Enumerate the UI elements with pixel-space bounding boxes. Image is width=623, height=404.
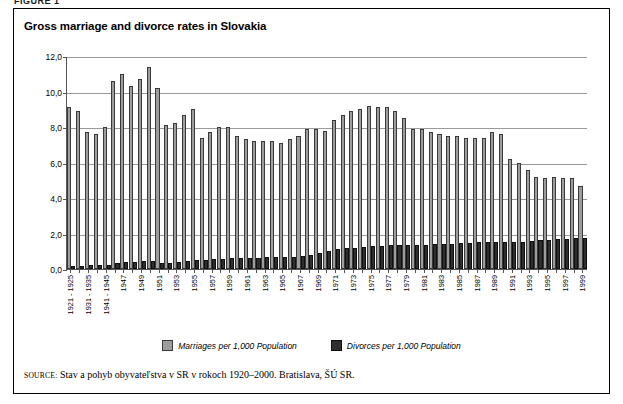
- bar-group: [208, 57, 217, 269]
- bar-marriages: [111, 81, 115, 269]
- bar-group: [173, 57, 182, 269]
- x-axis-tick: [265, 270, 266, 273]
- x-axis-slot: 1921 - 1925: [66, 270, 75, 332]
- bar-group: [437, 57, 446, 269]
- x-axis-slot: [393, 270, 402, 332]
- bar-marriages: [67, 107, 71, 269]
- legend-item-divorces: Divorces per 1,000 Population: [331, 340, 461, 351]
- x-axis-tick-label: 1977: [384, 275, 393, 291]
- bar-group: [578, 57, 587, 269]
- bar-group: [111, 57, 120, 269]
- x-axis-tick: [150, 270, 151, 273]
- x-axis-tick: [309, 270, 310, 273]
- x-axis-slot: 1931 - 1935: [84, 270, 93, 332]
- x-axis-tick: [70, 270, 71, 273]
- x-axis-tick: [194, 270, 195, 273]
- x-axis-tick-label: 1965: [278, 275, 287, 291]
- x-axis-slot: [251, 270, 260, 332]
- x-axis-tick: [565, 270, 566, 273]
- x-axis-tick-label: 1967: [295, 275, 304, 291]
- x-axis-tick-label: 1997: [560, 275, 569, 291]
- x-axis-tick: [574, 270, 575, 273]
- x-axis-tick: [582, 270, 583, 273]
- x-axis-slot: 1993: [525, 270, 534, 332]
- x-axis-slot: 1951: [154, 270, 163, 332]
- x-axis-slot: 1989: [490, 270, 499, 332]
- bar-group: [534, 57, 543, 269]
- x-axis-slot: [92, 270, 101, 332]
- bar-marriages: [279, 143, 283, 269]
- bar-group: [261, 57, 270, 269]
- bar-marriages: [164, 125, 168, 269]
- x-axis-slot: 1973: [349, 270, 358, 332]
- x-axis-tick: [485, 270, 486, 273]
- x-axis-tick: [132, 270, 133, 273]
- x-axis-tick: [441, 270, 442, 273]
- bar-marriages: [244, 139, 248, 269]
- x-axis-slot: 1959: [225, 270, 234, 332]
- bar-marriages: [103, 127, 107, 269]
- bar-marriages: [341, 115, 345, 269]
- bar-group: [243, 57, 252, 269]
- x-axis-tick-label: 1975: [366, 275, 375, 291]
- x-axis-tick: [88, 270, 89, 273]
- x-axis-tick: [556, 270, 557, 273]
- y-axis-tick-label: 0,0: [24, 265, 62, 275]
- x-axis-tick-label: 1995: [543, 275, 552, 291]
- legend-swatch-marriages: [162, 340, 173, 351]
- x-axis-labels: 1921 - 19251931 - 19351941 - 19451947194…: [66, 270, 587, 332]
- x-axis-tick: [503, 270, 504, 273]
- x-axis-slot: 1977: [384, 270, 393, 332]
- x-axis-slot: [181, 270, 190, 332]
- bar-marriages: [358, 109, 362, 269]
- bar-marriages: [235, 136, 239, 269]
- bar-group: [367, 57, 376, 269]
- x-axis-slot: 1941 - 1945: [101, 270, 110, 332]
- x-axis-tick: [521, 270, 522, 273]
- bar-group: [199, 57, 208, 269]
- x-axis-slot: [552, 270, 561, 332]
- x-axis-slot: 1969: [313, 270, 322, 332]
- bar-group: [349, 57, 358, 269]
- plot-area: 0,02,04,06,08,010,012,0 1921 - 19251931 …: [24, 45, 599, 295]
- bar-marriages: [305, 129, 309, 269]
- x-axis-tick: [415, 270, 416, 273]
- x-axis-tick: [176, 270, 177, 273]
- x-axis-tick-label: 1949: [137, 275, 146, 291]
- x-axis-tick-label: 1993: [525, 275, 534, 291]
- bar-marriages: [120, 74, 124, 269]
- x-axis-slot: 1997: [560, 270, 569, 332]
- bar-group: [508, 57, 517, 269]
- x-axis-tick: [477, 270, 478, 273]
- bar-marriages: [288, 139, 292, 269]
- bar-marriages: [147, 67, 151, 269]
- x-axis-tick-label: 1969: [313, 275, 322, 291]
- x-axis-tick: [185, 270, 186, 273]
- x-axis-slot: [304, 270, 313, 332]
- bar-group: [340, 57, 349, 269]
- x-axis-tick: [459, 270, 460, 273]
- x-axis-slot: [410, 270, 419, 332]
- bar-marriages: [226, 127, 230, 269]
- x-axis-tick: [326, 270, 327, 273]
- x-axis-tick-label: 1963: [260, 275, 269, 291]
- bar-group: [190, 57, 199, 269]
- x-axis-tick: [247, 270, 248, 273]
- bar-group: [296, 57, 305, 269]
- x-axis-slot: 1953: [172, 270, 181, 332]
- bar-series-container: [67, 57, 587, 269]
- bar-group: [446, 57, 455, 269]
- bar-marriages: [217, 127, 221, 269]
- x-axis-tick: [141, 270, 142, 273]
- x-axis-slot: 1947: [119, 270, 128, 332]
- bar-group: [420, 57, 429, 269]
- bar-group: [129, 57, 138, 269]
- source-note: SOURCE: Stav a pohyb obyvateľstva v SR v…: [24, 369, 355, 380]
- bar-marriages: [314, 129, 318, 269]
- bar-group: [155, 57, 164, 269]
- bar-group: [182, 57, 191, 269]
- bar-marriages: [367, 106, 371, 269]
- y-axis-tick-label: 2,0: [24, 230, 62, 240]
- x-axis-tick: [432, 270, 433, 273]
- x-axis-slot: [375, 270, 384, 332]
